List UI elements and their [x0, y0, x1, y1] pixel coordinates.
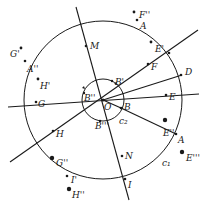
- label-H: H: [55, 129, 64, 139]
- label-E: E: [168, 92, 176, 102]
- label-N: N: [124, 151, 134, 161]
- geometry-diagram: M N I E D F E' F'' A G' A'' H' G H G'' I…: [0, 0, 207, 210]
- point-B: [120, 107, 123, 110]
- label-c1: c₁: [162, 158, 171, 168]
- label-B: B: [123, 102, 131, 112]
- label-F: F: [150, 62, 158, 72]
- label-E-prime: E': [154, 44, 164, 54]
- label-G-prime: G': [10, 49, 20, 59]
- point-G: [35, 101, 38, 104]
- label-G: G: [38, 99, 45, 109]
- point-M: [85, 45, 88, 48]
- label-D: D: [184, 67, 192, 77]
- label-F-dprime: F'': [138, 10, 150, 20]
- point-D: [180, 74, 183, 77]
- point-B-prime-circle: [111, 80, 113, 82]
- point-F-dprime: [133, 11, 136, 14]
- point-H-dprime: [67, 187, 71, 191]
- point-F: [147, 63, 150, 66]
- point-E-prime-circle: [168, 52, 171, 55]
- point-E-prime: [150, 41, 153, 44]
- arrow-mark-c2-left: [82, 86, 85, 89]
- point-E-tprime: [180, 150, 184, 154]
- point-G-dprime: [50, 156, 54, 160]
- label-B-prime: B': [114, 77, 124, 87]
- point-A-dprime-circle: [24, 60, 27, 63]
- point-N: [121, 155, 124, 158]
- label-E-dprime: E'': [162, 128, 175, 138]
- point-I-prime-circle: [66, 175, 69, 178]
- point-H: [52, 130, 55, 133]
- label-I-prime: I': [70, 175, 77, 185]
- point-I: [124, 178, 127, 181]
- label-B-tprime: B''': [94, 121, 109, 131]
- label-c2: c₂: [119, 116, 128, 126]
- point-E: [165, 94, 168, 97]
- label-A-dprime: A'': [26, 64, 38, 74]
- label-A-top: A: [139, 21, 147, 31]
- label-H-prime: H': [39, 81, 50, 91]
- label-O: O: [104, 102, 112, 112]
- label-H-dprime: H'': [71, 190, 85, 200]
- point-A: [175, 133, 178, 136]
- point-G-prime: [20, 47, 23, 50]
- label-I: I: [127, 180, 132, 190]
- point-E-dprime: [163, 118, 167, 122]
- label-G-dprime: G'': [56, 158, 68, 168]
- label-M: M: [89, 41, 100, 51]
- point-H-prime: [37, 78, 40, 81]
- line-M-N: [76, 7, 129, 200]
- point-A-circle: [136, 19, 139, 22]
- label-E-tprime: E''': [185, 153, 200, 163]
- label-A: A: [177, 135, 185, 145]
- label-B-dprime: B'': [83, 93, 96, 103]
